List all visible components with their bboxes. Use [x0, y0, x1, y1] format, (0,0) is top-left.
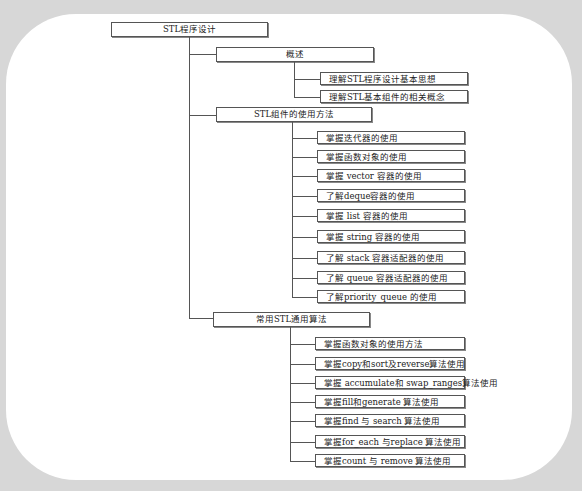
leaf-node: 掌握copy和sort及reverse算法使用	[315, 357, 465, 370]
connector-line	[290, 461, 315, 462]
main-trunk-line	[189, 37, 190, 319]
section-node-algorithms: 常用STL通用算法	[213, 312, 370, 327]
connector-line	[292, 258, 317, 259]
leaf-node: 掌握fill和generate 算法使用	[315, 395, 465, 408]
connector-line	[292, 176, 317, 177]
connector-line	[189, 54, 216, 55]
connector-line	[290, 364, 315, 365]
connector-line	[292, 297, 317, 298]
leaf-node: 掌握迭代器的使用	[317, 131, 465, 144]
leaf-node: 掌握函数对象的使用	[317, 150, 465, 163]
connector-line	[290, 383, 315, 384]
connector-line	[189, 318, 213, 319]
connector-line	[292, 278, 317, 279]
leaf-node: 掌握函数对象的使用方法	[315, 337, 465, 350]
root-node: STL程序设计	[111, 22, 268, 37]
leaf-node: 了解 stack 容器适配器的使用	[317, 251, 465, 264]
section-trunk-line	[292, 122, 293, 298]
connector-line	[292, 138, 317, 139]
connector-line	[290, 442, 315, 443]
connector-line	[294, 79, 320, 80]
connector-line	[292, 157, 317, 158]
leaf-node: 了解priority_queue 的使用	[317, 290, 465, 303]
connector-line	[292, 196, 317, 197]
connector-line	[290, 402, 315, 403]
connector-line	[294, 97, 320, 98]
connector-line	[292, 216, 317, 217]
diagram-card	[6, 14, 572, 480]
leaf-node: 掌握 string 容器的使用	[317, 230, 465, 243]
leaf-node: 掌握 list 容器的使用	[317, 209, 465, 222]
leaf-node: 掌握for_each 与replace 算法使用	[315, 435, 465, 448]
leaf-node: 掌握find 与 search 算法使用	[315, 414, 465, 427]
leaf-node: 掌握 accumulate和 swap_ranges算法使用	[315, 376, 465, 389]
leaf-node: 了解deque容器的使用	[317, 189, 465, 202]
connector-line	[290, 421, 315, 422]
leaf-node: 理解STL程序设计基本思想	[320, 72, 468, 85]
leaf-node: 掌握count 与 remove 算法使用	[315, 454, 465, 467]
leaf-node: 掌握 vector 容器的使用	[317, 169, 465, 182]
connector-line	[292, 237, 317, 238]
leaf-node: 理解STL基本组件的相关概念	[320, 90, 468, 103]
connector-line	[290, 344, 315, 345]
section-trunk-line	[294, 62, 295, 98]
leaf-node: 了解 queue 容器适配器的使用	[317, 271, 465, 284]
section-node-overview: 概述	[216, 47, 374, 62]
section-node-components: STL组件的使用方法	[216, 107, 372, 122]
connector-line	[189, 115, 216, 116]
